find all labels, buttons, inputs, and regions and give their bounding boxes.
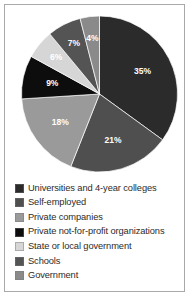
chart-frame: 35%21%18%9%6%7%4% Universities and 4-yea… — [4, 4, 185, 292]
legend-item-label: Government — [28, 271, 78, 280]
chart-page: 35%21%18%9%6%7%4% Universities and 4-yea… — [0, 0, 189, 296]
legend-item-label: State or local government — [28, 242, 131, 251]
pie-data-label: 21% — [104, 135, 121, 145]
legend-item[interactable]: Universities and 4-year colleges — [15, 181, 187, 196]
pie-chart: 35%21%18%9%6%7%4% — [10, 10, 189, 178]
legend-item[interactable]: Self-employed — [15, 196, 187, 211]
legend-item[interactable]: State or local government — [15, 239, 187, 254]
pie-data-label: 18% — [52, 117, 69, 127]
legend-item-label: Private not-for-profit organizations — [28, 227, 164, 236]
pie-data-label: 4% — [86, 33, 99, 43]
legend-swatch — [15, 213, 24, 222]
pie-chart-svg: 35%21%18%9%6%7%4% — [10, 10, 189, 178]
pie-slice-group — [21, 16, 177, 172]
pie-data-label: 35% — [134, 66, 151, 76]
legend-swatch — [15, 271, 24, 280]
legend-item-label: Private companies — [28, 213, 103, 222]
legend-item[interactable]: Government — [15, 269, 187, 284]
legend-item[interactable]: Schools — [15, 254, 187, 269]
legend-swatch — [15, 257, 24, 266]
chart-legend: Universities and 4-year collegesSelf-emp… — [15, 181, 187, 283]
pie-data-label: 6% — [50, 52, 63, 62]
legend-item-label: Self-employed — [28, 198, 86, 207]
legend-swatch — [15, 184, 24, 193]
legend-item[interactable]: Private not-for-profit organizations — [15, 225, 187, 240]
legend-item[interactable]: Private companies — [15, 210, 187, 225]
legend-swatch — [15, 242, 24, 251]
legend-item-label: Schools — [28, 257, 60, 266]
pie-data-label: 9% — [46, 78, 59, 88]
legend-swatch — [15, 228, 24, 237]
legend-item-label: Universities and 4-year colleges — [28, 184, 157, 193]
pie-data-label: 7% — [68, 38, 81, 48]
legend-swatch — [15, 198, 24, 207]
